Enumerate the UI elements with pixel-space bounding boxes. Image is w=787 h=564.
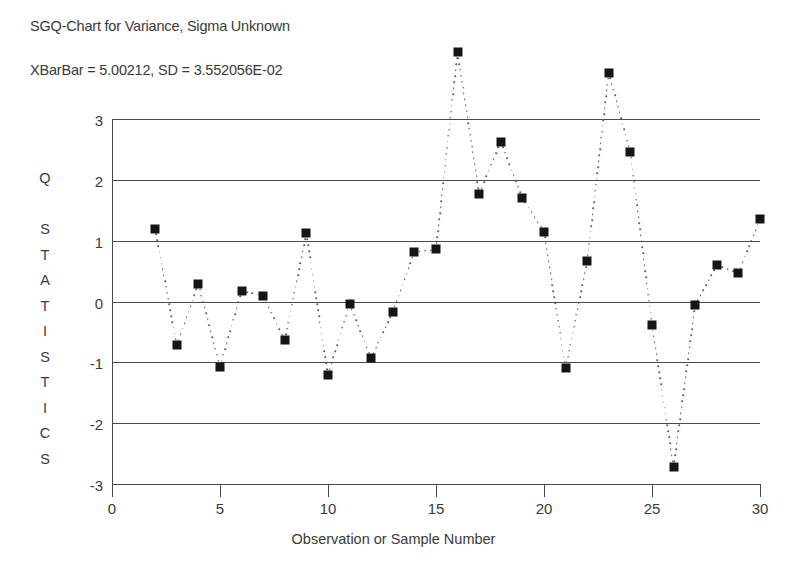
connector-dot bbox=[644, 270, 646, 272]
connector-dot bbox=[495, 152, 497, 154]
connector-dot bbox=[469, 128, 471, 130]
connector-dot bbox=[322, 339, 324, 341]
connector-dot bbox=[290, 310, 292, 312]
connector-dot bbox=[588, 243, 590, 245]
connector-dot bbox=[670, 448, 672, 450]
connector-dot bbox=[559, 332, 561, 334]
connector-dot bbox=[668, 437, 670, 439]
x-tick-label: 25 bbox=[644, 500, 661, 517]
y-axis-title: Q STATISTICS bbox=[36, 166, 54, 472]
connector-dot bbox=[585, 267, 587, 269]
connector-dot bbox=[390, 316, 392, 318]
connector-dot bbox=[592, 213, 594, 215]
connector-dot bbox=[647, 288, 649, 290]
data-point-marker bbox=[518, 194, 527, 203]
connector-dot bbox=[475, 169, 477, 171]
connector-dot bbox=[580, 290, 582, 292]
connector-dot bbox=[319, 321, 321, 323]
connector-dot bbox=[590, 225, 592, 227]
connector-dot bbox=[463, 93, 465, 95]
connector-dot bbox=[644, 264, 646, 266]
connector-dot bbox=[168, 304, 170, 306]
connector-dot bbox=[547, 255, 549, 257]
connector-dot bbox=[562, 350, 564, 352]
connector-dot bbox=[654, 342, 656, 344]
connector-dot bbox=[659, 377, 661, 379]
connector-dot bbox=[751, 240, 753, 242]
connector-dot bbox=[458, 57, 460, 59]
connector-dot bbox=[678, 430, 680, 432]
connector-dot bbox=[622, 123, 624, 125]
connector-dot bbox=[627, 140, 629, 142]
connector-dot bbox=[607, 84, 609, 86]
connector-dot bbox=[167, 298, 169, 300]
connector-dot bbox=[498, 147, 500, 149]
connector-dot bbox=[584, 272, 586, 274]
connector-dot bbox=[452, 99, 454, 101]
connector-dot bbox=[444, 165, 446, 167]
connector-dot bbox=[599, 149, 601, 151]
connector-dot bbox=[313, 280, 315, 282]
connector-dot bbox=[646, 282, 648, 284]
data-point-marker bbox=[648, 320, 657, 329]
connector-dot bbox=[194, 294, 196, 296]
connector-dot bbox=[490, 164, 492, 166]
connector-dot bbox=[342, 327, 344, 329]
connector-dot bbox=[617, 106, 619, 108]
x-tick-label: 15 bbox=[428, 500, 445, 517]
connector-dot bbox=[471, 146, 473, 148]
connector-dot bbox=[343, 321, 345, 323]
connector-dot bbox=[694, 310, 696, 312]
connector-dot bbox=[678, 424, 680, 426]
connector-dot bbox=[323, 345, 325, 347]
connector-dot bbox=[268, 306, 270, 308]
connector-dot bbox=[315, 292, 317, 294]
x-tick-label: 5 bbox=[216, 500, 224, 517]
connector-dot bbox=[441, 195, 443, 197]
y-tick-label: -3 bbox=[90, 477, 103, 494]
connector-dot bbox=[703, 289, 705, 291]
y-tick-label: 1 bbox=[95, 233, 103, 250]
connector-dot bbox=[656, 353, 658, 355]
connector-dot bbox=[325, 357, 327, 359]
connector-dot bbox=[216, 354, 218, 356]
connector-dot bbox=[246, 291, 248, 293]
connector-dot bbox=[667, 431, 669, 433]
data-point-marker bbox=[151, 224, 160, 233]
connector-dot bbox=[205, 313, 207, 315]
x-axis-title: Observation or Sample Number bbox=[0, 531, 787, 547]
connector-dot bbox=[552, 284, 554, 286]
connector-dot bbox=[555, 308, 557, 310]
connector-dot bbox=[207, 319, 209, 321]
connector-dot bbox=[603, 113, 605, 115]
connector-dot bbox=[210, 330, 212, 332]
connector-dot bbox=[603, 119, 605, 121]
data-point-marker bbox=[712, 261, 721, 270]
connector-dot bbox=[273, 317, 275, 319]
data-point-marker bbox=[302, 229, 311, 238]
connector-dot bbox=[653, 336, 655, 338]
connector-dot bbox=[664, 407, 666, 409]
data-point-marker bbox=[734, 268, 743, 277]
connector-dot bbox=[286, 328, 288, 330]
connector-dot bbox=[742, 261, 744, 263]
connector-dot bbox=[711, 274, 713, 276]
connector-dot bbox=[192, 300, 194, 302]
connector-dot bbox=[556, 314, 558, 316]
data-point-marker bbox=[259, 292, 268, 301]
connector-dot bbox=[705, 284, 707, 286]
connector-dot bbox=[591, 219, 593, 221]
y-axis-title-letter: S bbox=[36, 345, 54, 371]
connector-dot bbox=[292, 298, 294, 300]
connector-dot bbox=[557, 320, 559, 322]
connector-dot bbox=[226, 342, 228, 344]
connector-dot bbox=[311, 268, 313, 270]
data-point-marker bbox=[432, 245, 441, 254]
connector-dot bbox=[537, 221, 539, 223]
connector-dot bbox=[419, 251, 421, 253]
connector-dot bbox=[404, 279, 406, 281]
connector-dot bbox=[676, 442, 678, 444]
connector-dot bbox=[300, 262, 302, 264]
connector-dot bbox=[442, 189, 444, 191]
connector-dot bbox=[602, 125, 604, 127]
